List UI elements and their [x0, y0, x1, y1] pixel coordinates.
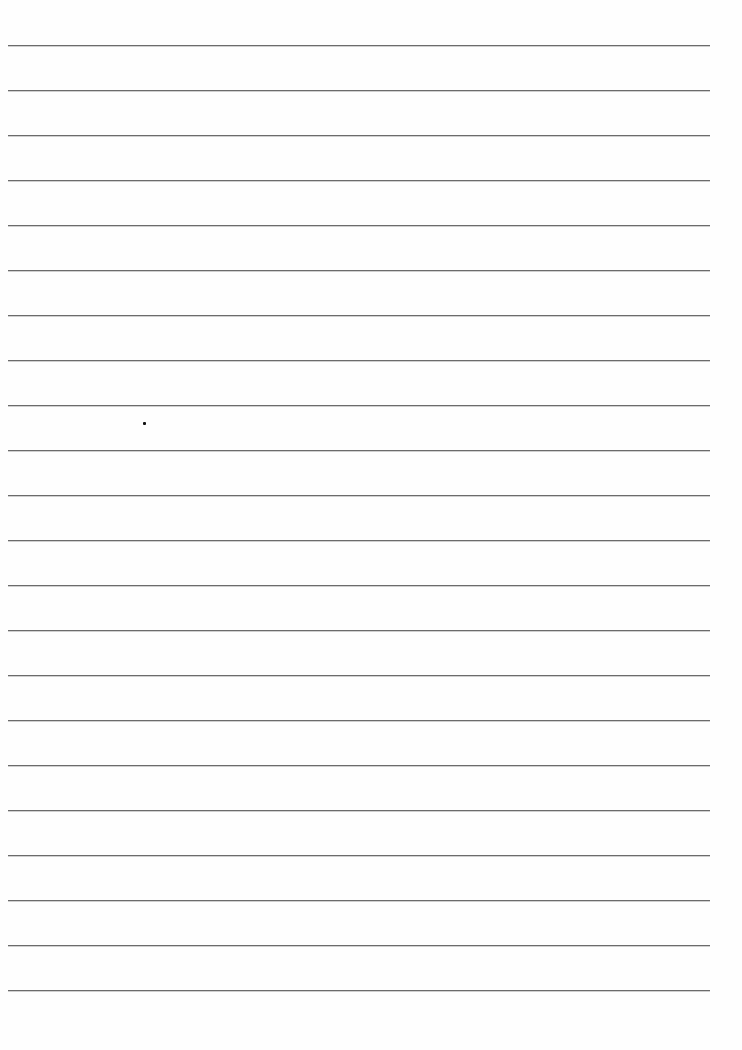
ruled-line	[8, 990, 710, 991]
ink-dot-mark	[143, 422, 146, 425]
ruled-line	[8, 225, 710, 226]
lined-paper-page	[0, 0, 742, 1050]
ruled-line	[8, 90, 710, 91]
ruled-line	[8, 315, 710, 316]
ruled-line	[8, 810, 710, 811]
ruled-line	[8, 360, 710, 361]
ruled-line	[8, 720, 710, 721]
ruled-line	[8, 450, 710, 451]
ruled-line	[8, 675, 710, 676]
ruled-line	[8, 765, 710, 766]
ruled-line	[8, 495, 710, 496]
ruled-line	[8, 585, 710, 586]
ruled-line	[8, 855, 710, 856]
ruled-line	[8, 135, 710, 136]
ruled-line	[8, 900, 710, 901]
ruled-line	[8, 405, 710, 406]
ruled-line	[8, 270, 710, 271]
ruled-line	[8, 45, 710, 46]
ruled-line	[8, 945, 710, 946]
ruled-line	[8, 180, 710, 181]
ruled-line	[8, 540, 710, 541]
ruled-line	[8, 630, 710, 631]
